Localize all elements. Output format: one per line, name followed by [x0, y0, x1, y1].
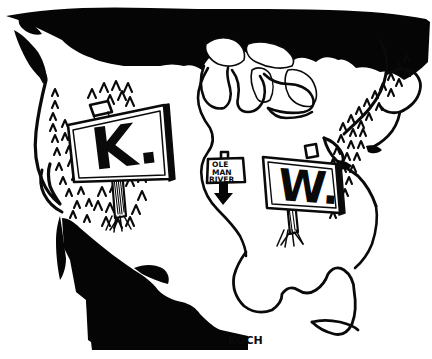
- cartoon-canvas: K. W.: [0, 0, 432, 359]
- river-sign-line-3: RIVER: [209, 175, 234, 184]
- sign-east-knob: [305, 144, 318, 158]
- cartoon-illustration: K. W.: [0, 0, 432, 359]
- artist-signature: KOCH: [228, 334, 263, 347]
- sign-west-letter: K.: [87, 108, 162, 184]
- sign-east-letter: W.: [276, 159, 341, 214]
